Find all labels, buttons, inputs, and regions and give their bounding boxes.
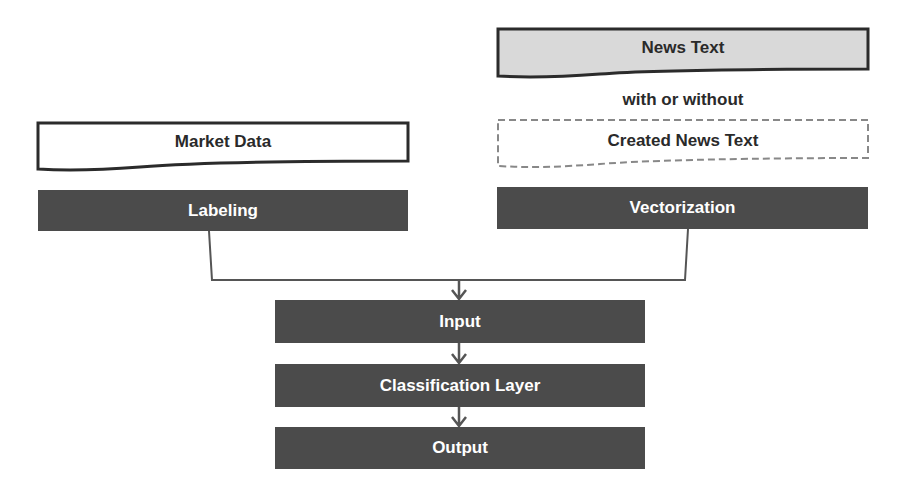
connector-vectorization [459,229,688,280]
with-or-without-label: with or without [498,90,868,110]
market-data-label: Market Data [38,132,408,152]
news-text-label: News Text [498,38,868,58]
classification-layer-box: Classification Layer [275,364,645,407]
diagram-shapes [0,0,898,497]
created-news-text-label: Created News Text [498,131,868,151]
input-box: Input [275,300,645,343]
labeling-box: Labeling [38,190,408,231]
arrow-to-input [452,280,466,299]
market-data-box: Market Data [38,123,408,163]
news-text-box: News Text [498,29,868,69]
output-box: Output [275,427,645,469]
arrow-to-output [452,407,466,426]
connector-labeling [209,231,459,280]
arrow-to-classification [452,343,466,363]
created-news-text-box: Created News Text [498,120,868,160]
vectorization-box: Vectorization [497,187,868,229]
with-or-without: with or without [498,90,868,112]
